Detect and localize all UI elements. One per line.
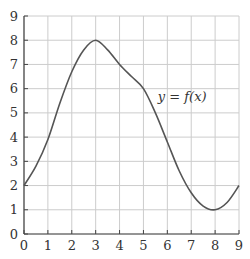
y-tick-label: 6 <box>10 81 18 96</box>
y-axis-tick-labels: 0123456789 <box>10 9 18 242</box>
y-tick-label: 3 <box>10 154 18 169</box>
x-tick-label: 6 <box>163 238 171 253</box>
x-axis-tick-labels: 0123456789 <box>20 238 243 253</box>
x-tick-label: 4 <box>115 238 123 253</box>
y-tick-label: 1 <box>10 202 18 217</box>
line-chart: 0123456789 0123456789 y = f(x) <box>0 0 250 259</box>
grid-lines <box>24 16 239 234</box>
x-tick-label: 0 <box>20 238 28 253</box>
y-tick-label: 9 <box>10 9 18 24</box>
y-tick-label: 4 <box>10 130 18 145</box>
axes <box>24 16 239 234</box>
x-tick-label: 7 <box>187 238 195 253</box>
y-tick-label: 8 <box>10 33 18 48</box>
x-tick-label: 5 <box>139 238 147 253</box>
y-tick-label: 0 <box>10 227 18 242</box>
function-curve <box>24 40 239 210</box>
x-tick-label: 9 <box>235 238 243 253</box>
y-tick-label: 7 <box>10 57 18 72</box>
x-tick-label: 1 <box>44 238 52 253</box>
function-label: y = f(x) <box>157 89 207 104</box>
y-tick-label: 5 <box>10 105 18 120</box>
y-tick-label: 2 <box>10 178 18 193</box>
x-tick-label: 8 <box>211 238 219 253</box>
x-tick-label: 3 <box>92 238 100 253</box>
x-tick-label: 2 <box>68 238 76 253</box>
